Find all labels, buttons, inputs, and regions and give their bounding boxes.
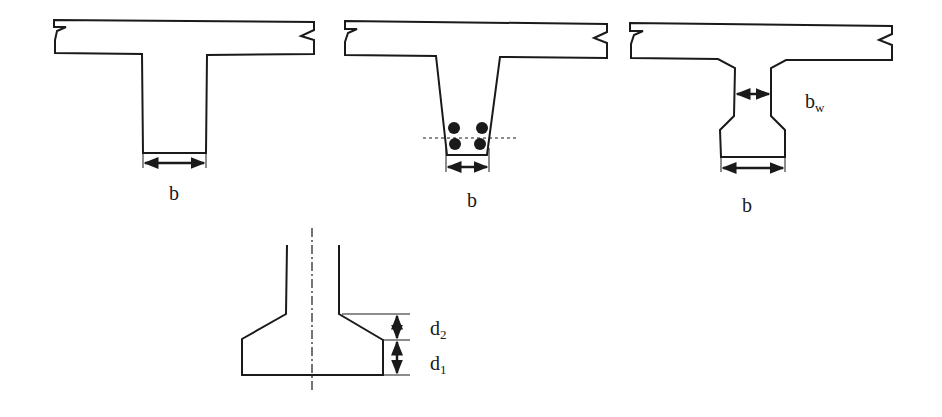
label-d2: d2 bbox=[430, 317, 447, 342]
rebar-icon bbox=[474, 138, 486, 150]
rebar-icon bbox=[449, 138, 461, 150]
section-i-web bbox=[630, 23, 892, 172]
diagram-canvas: b b bw b d2 d1 bbox=[0, 0, 942, 417]
rebar-group bbox=[448, 122, 488, 150]
label-b-3: b bbox=[742, 194, 752, 216]
label-d1: d1 bbox=[430, 352, 447, 377]
label-b-1: b bbox=[169, 182, 179, 204]
t-beam-outline bbox=[54, 20, 314, 153]
t-beam-outline bbox=[345, 21, 607, 155]
rebar-icon bbox=[448, 122, 460, 134]
bulb-detail bbox=[242, 228, 410, 392]
section-tapered-web bbox=[345, 21, 607, 172]
label-b-2: b bbox=[467, 189, 477, 211]
rebar-icon bbox=[476, 122, 488, 134]
section-rectangular-web bbox=[54, 20, 314, 168]
label-bw: bw bbox=[805, 90, 825, 115]
t-beam-outline bbox=[630, 23, 892, 157]
